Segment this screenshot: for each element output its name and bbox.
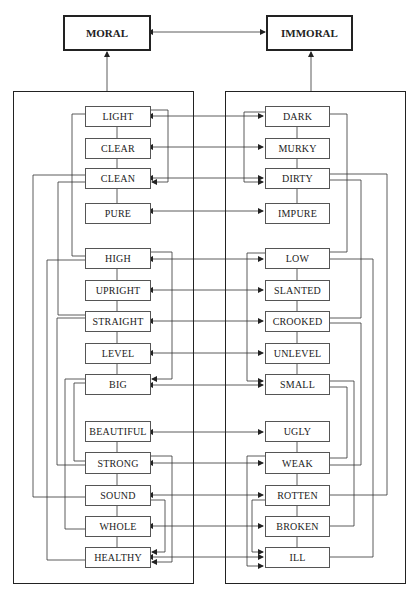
term-small: SMALL <box>265 374 330 395</box>
term-whole: WHOLE <box>85 516 151 537</box>
term-light: LIGHT <box>85 106 151 127</box>
term-label: BEAUTIFUL <box>89 426 146 437</box>
term-label: CLEAN <box>101 173 135 184</box>
term-beautiful: BEAUTIFUL <box>85 421 151 442</box>
term-label: BROKEN <box>276 521 318 532</box>
term-dirty: DIRTY <box>265 168 330 189</box>
term-label: LEVEL <box>102 348 135 359</box>
term-ill: ILL <box>265 547 330 568</box>
term-ugly: UGLY <box>265 421 330 442</box>
term-unlevel: UNLEVEL <box>265 343 330 364</box>
term-label: HIGH <box>105 253 131 264</box>
term-level: LEVEL <box>85 343 151 364</box>
term-label: UGLY <box>284 426 312 437</box>
moral-label: MORAL <box>86 27 128 39</box>
term-label: WHOLE <box>99 521 136 532</box>
term-label: SMALL <box>280 379 315 390</box>
term-label: MURKY <box>278 143 316 154</box>
immoral-label: IMMORAL <box>281 27 338 39</box>
term-straight: STRAIGHT <box>85 311 151 332</box>
term-murky: MURKY <box>265 138 330 159</box>
term-label: UPRIGHT <box>96 285 141 296</box>
term-label: HEALTHY <box>94 552 142 563</box>
term-label: DARK <box>283 111 312 122</box>
term-pure: PURE <box>85 203 151 224</box>
term-strong: STRONG <box>85 452 151 474</box>
term-label: ILL <box>289 552 305 563</box>
term-label: BIG <box>109 379 127 390</box>
term-label: CROOKED <box>273 316 323 327</box>
term-label: IMPURE <box>278 208 317 219</box>
term-healthy: HEALTHY <box>85 547 151 568</box>
moral-panel <box>13 91 194 584</box>
term-label: STRONG <box>97 458 138 469</box>
term-label: LIGHT <box>103 111 134 122</box>
immoral-box: IMMORAL <box>266 15 353 51</box>
term-low: LOW <box>265 248 330 269</box>
term-high: HIGH <box>85 248 151 269</box>
term-label: CLEAR <box>101 143 135 154</box>
term-label: STRAIGHT <box>92 316 143 327</box>
term-rotten: ROTTEN <box>265 485 330 506</box>
term-label: SLANTED <box>274 285 321 296</box>
term-crooked: CROOKED <box>265 311 330 332</box>
term-label: SOUND <box>100 490 135 501</box>
term-label: PURE <box>105 208 131 219</box>
term-big: BIG <box>85 374 151 395</box>
term-label: UNLEVEL <box>274 348 322 359</box>
term-label: DIRTY <box>282 173 313 184</box>
moral-box: MORAL <box>63 15 151 51</box>
term-dark: DARK <box>265 106 330 127</box>
term-label: ROTTEN <box>277 490 318 501</box>
term-label: LOW <box>286 253 309 264</box>
term-clean: CLEAN <box>85 168 151 189</box>
term-weak: WEAK <box>265 452 330 474</box>
term-sound: SOUND <box>85 485 151 506</box>
immoral-panel <box>225 91 406 584</box>
term-clear: CLEAR <box>85 138 151 159</box>
term-impure: IMPURE <box>265 203 330 224</box>
term-slanted: SLANTED <box>265 280 330 301</box>
term-label: WEAK <box>282 458 313 469</box>
term-upright: UPRIGHT <box>85 280 151 301</box>
term-broken: BROKEN <box>265 516 330 537</box>
